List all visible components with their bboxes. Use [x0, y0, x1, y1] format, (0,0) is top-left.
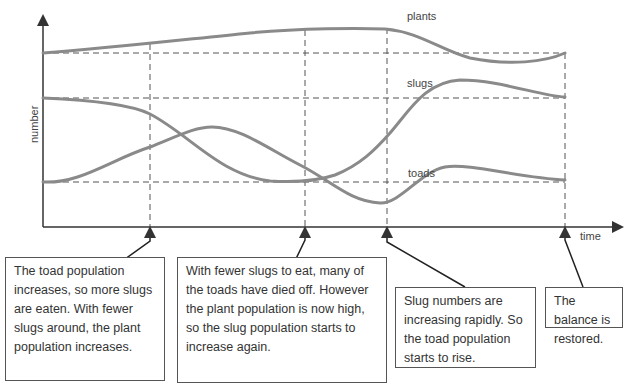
y-axis-label: number — [28, 105, 40, 143]
equilibrium-lines — [43, 53, 565, 182]
toads-curve — [43, 127, 565, 203]
x-axis-label: time — [580, 230, 601, 242]
population-curves — [43, 28, 565, 203]
annotation-text-3: Slug numbers are increasing rapidly. So … — [404, 294, 523, 365]
slugs-label: slugs — [407, 77, 433, 89]
annotation-text-4: The balance is restored. — [554, 294, 610, 346]
toads-label: toads — [408, 167, 435, 179]
annotation-box-4: The balance is restored. — [545, 287, 623, 328]
arrow-3 — [387, 232, 465, 287]
annotation-box-2: With fewer slugs to eat, many of the toa… — [177, 257, 387, 383]
annotation-box-1: The toad population increases, so more s… — [5, 257, 165, 381]
plants-curve — [43, 28, 565, 62]
plants-label: plants — [407, 10, 437, 22]
annotation-box-3: Slug numbers are increasing rapidly. So … — [395, 287, 536, 368]
axes — [43, 20, 618, 227]
annotation-text-1: The toad population increases, so more s… — [14, 264, 152, 354]
annotation-text-2: With fewer slugs to eat, many of the toa… — [186, 264, 369, 354]
